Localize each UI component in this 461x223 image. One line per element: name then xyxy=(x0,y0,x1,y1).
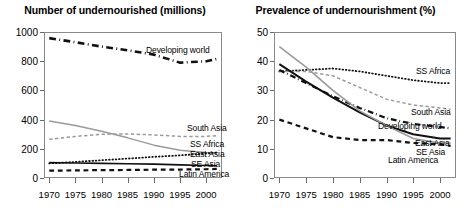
series-label-developing-world: Developing world xyxy=(378,122,442,131)
series-label-latin-america: Latin America xyxy=(179,170,229,179)
series-label-ss-africa: SS Africa xyxy=(416,67,450,76)
series-line-developing-world xyxy=(279,70,450,128)
series-label-developing-world: Developing world xyxy=(146,46,210,55)
chart-panel-number: Number of undernourished (millions) 1000… xyxy=(0,0,230,223)
series-label-latin-america: Latin America xyxy=(388,156,438,165)
series-label-se-asia: SE Asia xyxy=(191,160,220,169)
chart-panel-prevalence: Prevalence of undernourishment (%) 50 40… xyxy=(230,0,461,223)
series-line-south-asia xyxy=(279,71,450,109)
series-label-south-asia: South Asia xyxy=(411,108,451,117)
figure-root: Number of undernourished (millions) 1000… xyxy=(0,0,461,223)
series-lines-number xyxy=(0,0,230,223)
series-label-east-asia: East Asia xyxy=(190,150,225,159)
series-label-ss-africa: SS Africa xyxy=(190,140,224,149)
series-label-south-asia: South Asia xyxy=(187,124,227,133)
